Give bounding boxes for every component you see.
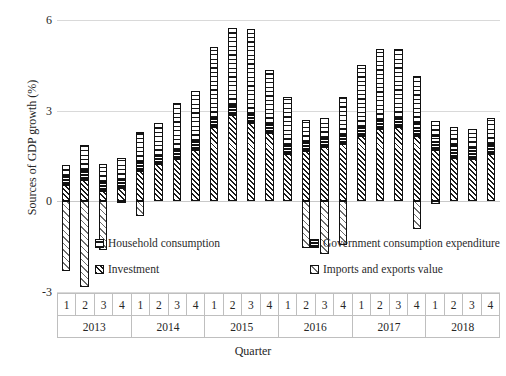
bar-segment-investment	[357, 136, 365, 201]
bar-segment-household	[339, 97, 347, 135]
gdp-growth-stacked-bar-chart: Sources of GDP growth (%) 630-3 Househol…	[0, 0, 506, 376]
bar-segment-government	[154, 156, 162, 164]
bar-segment-household	[283, 97, 291, 145]
bar-segment-imports	[80, 201, 88, 287]
bar-segment-government	[302, 142, 310, 151]
x-axis-quarter-cell: 3	[389, 293, 407, 316]
bar-segment-household	[247, 29, 255, 114]
x-axis-quarter-cell: 4	[481, 293, 500, 316]
x-axis-quarter-cell: 3	[241, 293, 259, 316]
bar-segment-government	[228, 105, 236, 116]
bar-segment-investment	[487, 154, 495, 201]
bar-segment-government	[468, 148, 476, 159]
x-axis-quarter-cell: 4	[260, 293, 278, 316]
x-axis-year-cell: 2017	[352, 316, 426, 338]
bar-segment-household	[376, 49, 384, 120]
bar-segment-imports	[136, 201, 144, 216]
legend-item-imports[interactable]: Imports and exports value	[310, 264, 443, 276]
bar-segment-household	[394, 49, 402, 119]
bar-segment-government	[394, 118, 402, 127]
bar-segment-government	[431, 136, 439, 150]
bar-segment-government	[62, 176, 70, 185]
bar-segment-household	[117, 158, 125, 181]
bar-segment-government	[265, 124, 273, 133]
bar-segment-investment	[228, 115, 236, 201]
legend-item-household[interactable]: Household consumption	[95, 238, 220, 250]
x-axis-quarter-cell: 4	[333, 293, 351, 316]
x-axis-quarter-cell: 3	[94, 293, 112, 316]
legend-label: Investment	[108, 264, 159, 276]
bar-segment-household	[191, 91, 199, 141]
bar-segment-household	[468, 129, 476, 149]
y-tick-label: -3	[26, 286, 52, 298]
y-axis-tick-labels: 630-3	[22, 0, 52, 376]
legend-label: Imports and exports value	[323, 264, 443, 276]
bar-segment-household	[320, 118, 328, 138]
bar-segment-government	[283, 145, 291, 154]
y-tick-label: 3	[26, 105, 52, 117]
x-axis-quarter-cell: 1	[352, 293, 370, 316]
bar-segment-government	[247, 114, 255, 123]
x-axis-year-cell: 2018	[425, 316, 500, 338]
bar-segment-investment	[339, 144, 347, 201]
bar-segment-investment	[413, 136, 421, 201]
x-axis-year-cell: 2016	[278, 316, 352, 338]
bar-segment-imports	[431, 201, 439, 204]
chart-legend: Household consumptionGovernment consumpt…	[95, 238, 495, 288]
bar-segment-government	[99, 182, 107, 191]
x-axis-year-cell: 2013	[57, 316, 131, 338]
legend-item-investment[interactable]: Investment	[95, 264, 159, 276]
legend-swatch-government-icon	[310, 239, 319, 248]
bar-segment-government	[487, 144, 495, 155]
x-axis-year-row: 201320142015201620172018	[57, 316, 500, 338]
x-axis-quarter-cell: 3	[462, 293, 480, 316]
x-axis-quarter-cell: 2	[75, 293, 93, 316]
bar-segment-government	[450, 145, 458, 157]
bar-segment-investment	[302, 151, 310, 201]
x-axis-quarter-cell: 2	[296, 293, 314, 316]
bar-segment-government	[117, 180, 125, 188]
bar-segment-household	[302, 120, 310, 143]
x-axis-quarter-cell: 3	[168, 293, 186, 316]
x-axis: 123412341234123412341234 201320142015201…	[57, 293, 500, 338]
bar-segment-investment	[117, 188, 125, 202]
bar-segment-household	[265, 70, 273, 124]
x-axis-quarter-row: 123412341234123412341234	[57, 293, 500, 316]
bar-segment-investment	[191, 150, 199, 201]
x-axis-quarter-cell: 4	[407, 293, 425, 316]
bar-segment-household	[413, 76, 421, 123]
bar-segment-government	[357, 127, 365, 136]
x-axis-quarter-cell: 1	[204, 293, 222, 316]
bar-segment-government	[339, 135, 347, 144]
bar-segment-investment	[283, 154, 291, 201]
bar-segment-investment	[320, 147, 328, 201]
bar-column[interactable]	[62, 20, 70, 292]
bar-segment-investment	[136, 171, 144, 201]
bar-column[interactable]	[80, 20, 88, 292]
legend-item-government[interactable]: Government consumption expenditure	[310, 238, 500, 250]
legend-label: Household consumption	[108, 238, 220, 250]
legend-swatch-household-icon	[95, 239, 104, 248]
bar-segment-investment	[450, 158, 458, 202]
x-axis-quarter-cell: 1	[57, 293, 75, 316]
bar-segment-investment	[247, 123, 255, 202]
legend-swatch-investment-icon	[95, 265, 104, 274]
x-axis-year-cell: 2015	[204, 316, 278, 338]
bar-segment-investment	[173, 159, 181, 201]
bar-segment-household	[450, 127, 458, 145]
bar-segment-household	[154, 123, 162, 156]
bar-segment-government	[173, 150, 181, 159]
bar-segment-government	[80, 170, 88, 181]
x-axis-quarter-cell: 2	[370, 293, 388, 316]
bar-segment-household	[136, 132, 144, 162]
bar-segment-household	[487, 118, 495, 144]
bar-segment-government	[210, 118, 218, 127]
bar-segment-investment	[265, 133, 273, 201]
bar-segment-investment	[210, 127, 218, 201]
bar-segment-household	[99, 164, 107, 182]
bar-segment-household	[228, 28, 236, 105]
bar-segment-government	[191, 141, 199, 150]
bar-segment-government	[413, 123, 421, 137]
bar-segment-government	[320, 138, 328, 147]
x-axis-quarter-cell: 1	[131, 293, 149, 316]
